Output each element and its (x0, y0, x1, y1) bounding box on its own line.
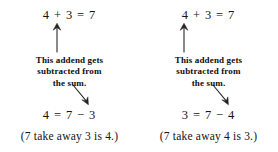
equation-addition-top: 4 + 3 = 7 (0, 8, 139, 23)
up-arrow-head-icon (53, 23, 61, 30)
equation-addition-top: 4 + 3 = 7 (139, 8, 278, 23)
diagram-panel-left: 4 + 3 = 7 This addend gets subtracted fr… (0, 0, 139, 152)
caption-addend-subtracted: This addend gets subtracted from the sum… (0, 55, 139, 89)
caption-line-2: subtracted from (139, 66, 278, 77)
takeaway-note: (7 take away 3 is 4.) (0, 130, 139, 142)
diagram-panel-right: 4 + 3 = 7 This addend gets subtracted fr… (139, 0, 278, 152)
caption-addend-subtracted: This addend gets subtracted from the sum… (139, 55, 278, 89)
equation-subtraction-bottom: 4 = 7 − 3 (0, 108, 139, 123)
down-arrow-head-icon (222, 97, 229, 105)
caption-line-2: subtracted from (0, 66, 139, 77)
equation-subtraction-bottom: 3 = 7 − 4 (139, 108, 278, 123)
down-arrow-head-icon (82, 97, 89, 105)
caption-line-1: This addend gets (139, 55, 278, 66)
caption-line-1: This addend gets (0, 55, 139, 66)
caption-line-3: the sum. (0, 78, 139, 89)
takeaway-note: (7 take away 4 is 3.) (139, 130, 278, 142)
caption-line-3: the sum. (139, 78, 278, 89)
up-arrow-head-icon (180, 23, 188, 30)
